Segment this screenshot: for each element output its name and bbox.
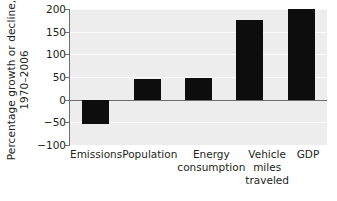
x-axis-category-label-line: miles [245,161,289,174]
x-axis-category-label-line: Emissions [70,148,122,161]
x-axis-category-labels: EmissionsPopulationEnergyconsumptionVehi… [70,147,327,201]
bar-chart-figure: Percentage growth or decline, 1970–2006 … [0,0,337,201]
y-axis-title-line-1: Percentage growth or decline, [5,0,18,160]
bar [236,20,263,99]
plot-area [70,9,327,145]
x-axis-category-label: GDP [289,147,327,201]
bar [134,79,161,99]
y-axis-tick-label: 150 [33,26,66,37]
x-axis-category-label-line: Population [122,148,177,161]
y-axis-title-text: Percentage growth or decline, 1970–2006 [5,0,30,160]
bar [288,9,315,100]
y-axis-tick-label: 100 [33,49,66,60]
y-axis-tick-mark [65,122,70,123]
x-axis-category-label-line: consumption [177,161,245,174]
y-axis-tick-label: 50 [33,72,66,83]
y-axis-tick-mark [65,9,70,10]
x-axis-category-label-line: GDP [289,148,327,161]
y-axis-tick-label: 200 [33,4,66,15]
x-axis-category-label-line: traveled [245,174,289,187]
y-axis-title-line-2: 1970–2006 [17,0,30,160]
y-axis-tick-mark [65,32,70,33]
y-axis-tick-label: 0 [33,94,66,105]
x-axis-category-label: Energyconsumption [177,147,245,201]
x-axis-category-label-line: Vehicle [245,148,289,161]
y-axis-tick-mark [65,54,70,55]
x-axis-category-label-line: Energy [177,148,245,161]
y-axis-title: Percentage growth or decline, 1970–2006 [0,0,34,160]
x-axis-category-label: Vehiclemilestraveled [245,147,289,201]
bar [185,78,212,99]
x-axis-category-label: Emissions [70,147,122,201]
y-axis-tick-labels: 200150100500−50−100 [33,0,66,160]
y-axis-tick-label: −50 [33,117,66,128]
y-axis-tick-mark [65,145,70,146]
y-axis-tick-mark [65,77,70,78]
bar [82,100,109,124]
y-axis-tick-label: −100 [33,140,66,151]
x-axis-category-label: Population [122,147,177,201]
y-axis-tick-mark [65,100,70,101]
